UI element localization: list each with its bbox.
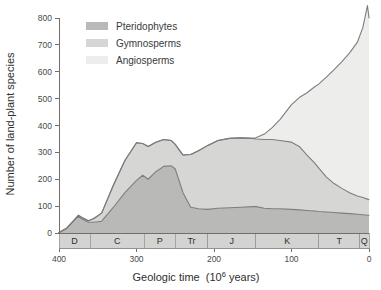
y-tick-label-0: 0 [47, 228, 52, 238]
x-axis-title: Geologic time (106 years) [132, 270, 259, 284]
legend-swatch-angiosperms [86, 56, 108, 64]
legend-swatch-pteridophytes [86, 22, 108, 30]
y-tick-label-100: 100 [38, 201, 52, 211]
period-label-Tr: Tr [187, 236, 195, 246]
y-axis-title: Number of land-plant species [4, 52, 16, 196]
x-tick-label-0: 0 [367, 254, 372, 264]
period-label-P: P [157, 236, 163, 246]
y-tick-label-800: 800 [38, 13, 52, 23]
y-tick-label-300: 300 [38, 147, 52, 157]
x-tick-label-300: 300 [129, 254, 143, 264]
period-label-D: D [71, 236, 78, 246]
x-tick-label-200: 200 [207, 254, 221, 264]
legend-label-pteridophytes: Pteridophytes [116, 21, 177, 32]
y-tick-label-700: 700 [38, 40, 52, 50]
period-label-T: T [336, 236, 342, 246]
period-label-K: K [284, 236, 290, 246]
x-axis-title-units-tail: years) [226, 271, 260, 283]
x-tick-label-400: 400 [52, 254, 66, 264]
y-tick-label-600: 600 [38, 67, 52, 77]
x-axis-title-units: (10 [200, 271, 222, 283]
y-tick-label-200: 200 [38, 174, 52, 184]
legend-label-gymnosperms: Gymnosperms [116, 38, 181, 49]
x-axis-title-main: Geologic time [132, 271, 199, 283]
chart-legend: PteridophytesGymnospermsAngiosperms [86, 21, 181, 66]
period-label-C: C [114, 236, 121, 246]
geologic-period-band: DCPTrJKTQ [59, 233, 369, 248]
chart-figure: 0100200300400500600700800 4003002001000 … [0, 0, 381, 290]
period-label-Q: Q [361, 236, 368, 246]
legend-swatch-gymnosperms [86, 39, 108, 47]
legend-label-angiosperms: Angiosperms [116, 55, 174, 66]
x-tick-label-100: 100 [284, 254, 298, 264]
period-label-J: J [230, 236, 235, 246]
y-tick-label-500: 500 [38, 94, 52, 104]
land-plant-diversity-chart: 0100200300400500600700800 4003002001000 … [0, 0, 381, 290]
y-tick-label-400: 400 [38, 121, 52, 131]
